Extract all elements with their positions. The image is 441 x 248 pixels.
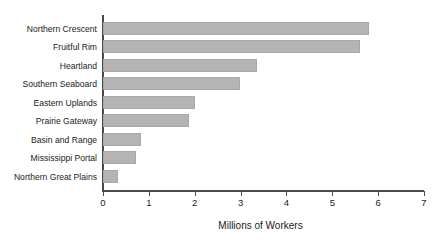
x-tick-7 <box>424 191 425 196</box>
bar-chart: 01234567 Northern CrescentFruitful RimHe… <box>0 0 441 248</box>
bar <box>103 96 195 109</box>
x-tick-3 <box>241 191 242 196</box>
x-tick-label-1: 1 <box>134 197 164 209</box>
x-tick-label-6: 6 <box>363 197 393 209</box>
bar <box>103 151 136 164</box>
bar <box>103 77 240 90</box>
category-label: Eastern Uplands <box>0 98 97 108</box>
x-tick-6 <box>378 191 379 196</box>
category-label: Northern Great Plains <box>0 172 97 182</box>
x-axis-line <box>102 190 424 192</box>
x-tick-0 <box>103 191 104 196</box>
x-tick-1 <box>149 191 150 196</box>
x-tick-5 <box>332 191 333 196</box>
x-tick-label-0: 0 <box>88 197 118 209</box>
bar <box>103 170 118 183</box>
bar <box>103 133 141 146</box>
bar <box>103 59 257 72</box>
category-label: Heartland <box>0 61 97 71</box>
x-tick-4 <box>286 191 287 196</box>
category-label: Basin and Range <box>0 135 97 145</box>
x-tick-label-4: 4 <box>271 197 301 209</box>
category-label: Fruitful Rim <box>0 42 97 52</box>
x-tick-label-3: 3 <box>226 197 256 209</box>
category-label: Prairie Gateway <box>0 116 97 126</box>
x-tick-label-5: 5 <box>317 197 347 209</box>
category-label: Mississippi Portal <box>0 153 97 163</box>
x-tick-label-2: 2 <box>180 197 210 209</box>
x-axis-title-text: Millions of Workers <box>218 220 302 231</box>
category-label: Northern Crescent <box>0 24 97 34</box>
category-label: Southern Seaboard <box>0 79 97 89</box>
bar <box>103 40 360 53</box>
bar <box>103 22 369 35</box>
x-axis-title: Millions of Workers <box>0 220 441 231</box>
bar <box>103 114 189 127</box>
x-tick-label-7: 7 <box>409 197 439 209</box>
x-tick-2 <box>195 191 196 196</box>
